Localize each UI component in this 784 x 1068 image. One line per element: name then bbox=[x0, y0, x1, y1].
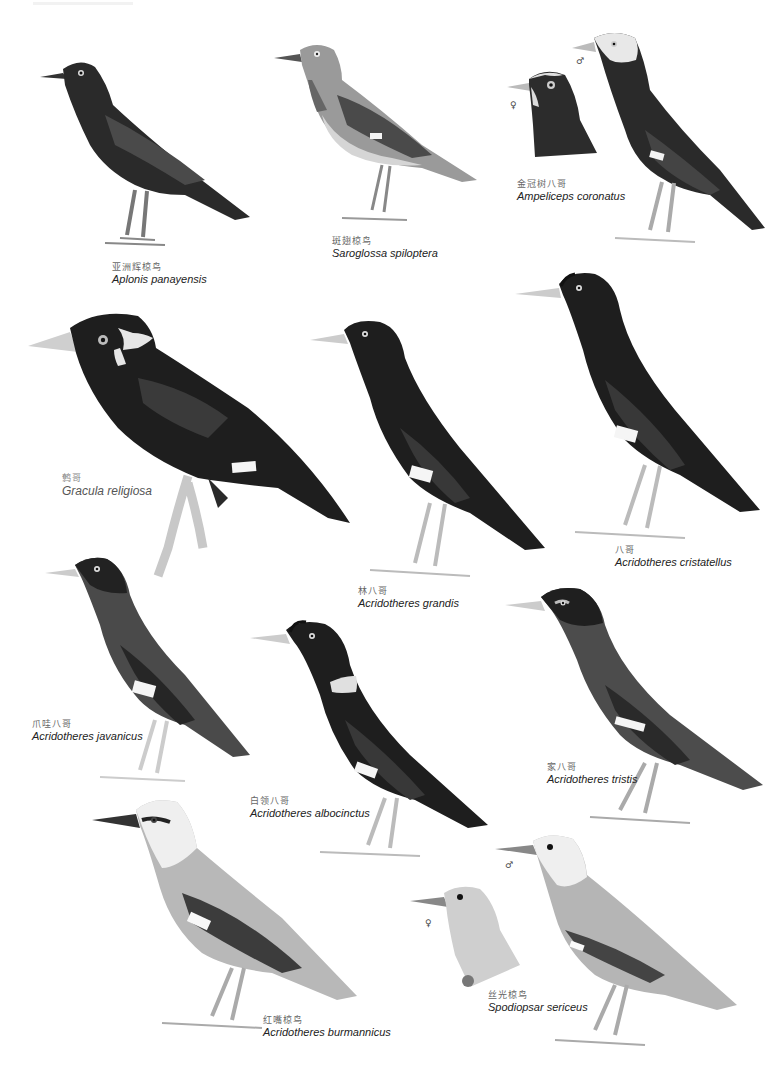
bird-aplonis-panayensis bbox=[35, 55, 255, 255]
saroglossa-illustration bbox=[272, 40, 487, 225]
scientific-name: Acridotheres cristatellus bbox=[615, 556, 732, 570]
bird-spodiopsar-male bbox=[495, 835, 740, 1050]
label-aplonis: 亚洲辉椋鸟 Aplonis panayensis bbox=[112, 262, 207, 287]
chinese-name: 红嘴椋鸟 bbox=[263, 1015, 391, 1026]
chinese-name: 斑翅椋鸟 bbox=[332, 236, 438, 247]
label-cristatellus: 八哥 Acridotheres cristatellus bbox=[615, 545, 732, 570]
label-javanicus: 爪哇八哥 Acridotheres javanicus bbox=[32, 719, 143, 744]
illustration-plate: 亚洲辉椋鸟 Aplonis panayensis 斑翅椋鸟 Saroglossa… bbox=[0, 0, 784, 1068]
female-symbol: ♀ bbox=[510, 100, 517, 110]
grandis-illustration bbox=[310, 318, 550, 583]
chinese-name: 林八哥 bbox=[358, 586, 459, 597]
label-ampeliceps: 金冠树八哥 Ampeliceps coronatus bbox=[517, 179, 625, 204]
label-gracula: 鹩哥 Gracula religiosa bbox=[62, 473, 152, 499]
bird-gracula-religiosa bbox=[28, 308, 358, 578]
label-grandis: 林八哥 Acridotheres grandis bbox=[358, 586, 459, 611]
chinese-name: 丝光椋鸟 bbox=[488, 990, 588, 1001]
chinese-name: 八哥 bbox=[615, 545, 732, 556]
label-tristis: 家八哥 Acridotheres tristis bbox=[547, 762, 637, 787]
scientific-name: Spodiopsar sericeus bbox=[488, 1001, 588, 1015]
bird-ampeliceps-male bbox=[570, 30, 770, 250]
bird-acridotheres-grandis bbox=[310, 318, 550, 583]
chinese-name: 家八哥 bbox=[547, 762, 637, 773]
scientific-name: Acridotheres burmannicus bbox=[263, 1026, 391, 1040]
aplonis-illustration bbox=[35, 55, 255, 255]
scientific-name: Acridotheres javanicus bbox=[32, 730, 143, 744]
burmannicus-illustration bbox=[92, 798, 362, 1033]
chinese-name: 亚洲辉椋鸟 bbox=[112, 262, 207, 273]
scientific-name: Gracula religiosa bbox=[62, 484, 152, 499]
header-faint-text bbox=[33, 2, 133, 5]
chinese-name: 金冠树八哥 bbox=[517, 179, 625, 190]
scientific-name: Acridotheres grandis bbox=[358, 597, 459, 611]
bird-acridotheres-cristatellus bbox=[515, 270, 765, 545]
scientific-name: Ampeliceps coronatus bbox=[517, 190, 625, 204]
label-sericeus: 丝光椋鸟 Spodiopsar sericeus bbox=[488, 990, 588, 1015]
scientific-name: Aplonis panayensis bbox=[112, 273, 207, 287]
bird-acridotheres-tristis bbox=[505, 585, 765, 830]
gracula-illustration bbox=[28, 308, 358, 578]
label-saroglossa: 斑翅椋鸟 Saroglossa spiloptera bbox=[332, 236, 438, 261]
bird-saroglossa-spiloptera bbox=[272, 40, 487, 225]
female-symbol: ♀ bbox=[425, 918, 432, 928]
ampeliceps-male-illustration bbox=[570, 30, 770, 250]
cristatellus-illustration bbox=[515, 270, 765, 545]
sericeus-male-illustration bbox=[495, 835, 740, 1050]
javanicus-illustration bbox=[45, 555, 255, 785]
bird-acridotheres-burmannicus bbox=[92, 798, 362, 1033]
chinese-name: 鹩哥 bbox=[62, 473, 152, 484]
tristis-illustration bbox=[505, 585, 765, 830]
bird-acridotheres-javanicus bbox=[45, 555, 255, 785]
scientific-name: Saroglossa spiloptera bbox=[332, 247, 438, 261]
chinese-name: 爪哇八哥 bbox=[32, 719, 143, 730]
scientific-name: Acridotheres tristis bbox=[547, 773, 637, 787]
label-burmannicus: 红嘴椋鸟 Acridotheres burmannicus bbox=[263, 1015, 391, 1040]
